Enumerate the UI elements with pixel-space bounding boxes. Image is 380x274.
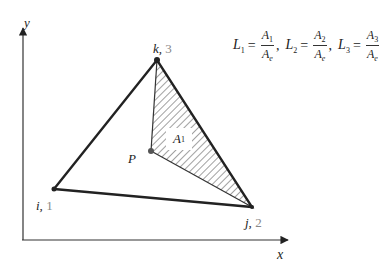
formula-sep-1: ,: [276, 38, 280, 54]
vertex-k-label: k, 3: [153, 42, 172, 55]
vertex-i-name: i,: [36, 198, 43, 213]
vertex-k-index: 3: [165, 41, 172, 56]
formula-lhs-1: L1: [233, 37, 245, 55]
vertex-k: [154, 57, 160, 63]
vertex-k-name: k,: [153, 41, 162, 56]
subarea-a1-label: A1: [166, 128, 192, 150]
formula-lhs-2: L2: [286, 37, 298, 55]
vertex-i-label: i, 1: [36, 199, 53, 212]
subarea-a1-main: A: [173, 131, 181, 147]
formula-fraction-1: A1 Ae: [261, 28, 274, 64]
formula-term-1: L1 = A1 Ae ,: [233, 28, 286, 64]
vertex-i: [52, 187, 57, 192]
vertex-j-index: 2: [255, 215, 262, 230]
formula-lhs-3: L3: [338, 37, 350, 55]
vertex-j-label: j, 2: [245, 216, 262, 229]
formula-equals-2: =: [300, 38, 308, 54]
shape-function-formula: L1 = A1 Ae , L2 = A2 Ae , L3 = A3 Ae: [233, 28, 380, 64]
formula-equals-1: =: [248, 38, 256, 54]
formula-term-2: L2 = A2 Ae ,: [286, 28, 339, 64]
formula-term-3: L3 = A3 Ae: [338, 28, 380, 64]
vertex-j: [250, 205, 254, 209]
point-p-label: P: [128, 152, 136, 165]
vertex-j-name: j,: [245, 215, 252, 230]
formula-sep-2: ,: [329, 38, 333, 54]
point-p: [148, 148, 154, 154]
vertex-i-index: 1: [46, 198, 53, 213]
formula-fraction-3: A3 Ae: [366, 28, 379, 64]
formula-equals-3: =: [353, 38, 361, 54]
subarea-a1-sub: 1: [181, 135, 185, 144]
y-axis-label: y: [24, 16, 30, 29]
x-axis-label: x: [277, 248, 283, 262]
formula-fraction-2: A2 Ae: [313, 28, 326, 64]
